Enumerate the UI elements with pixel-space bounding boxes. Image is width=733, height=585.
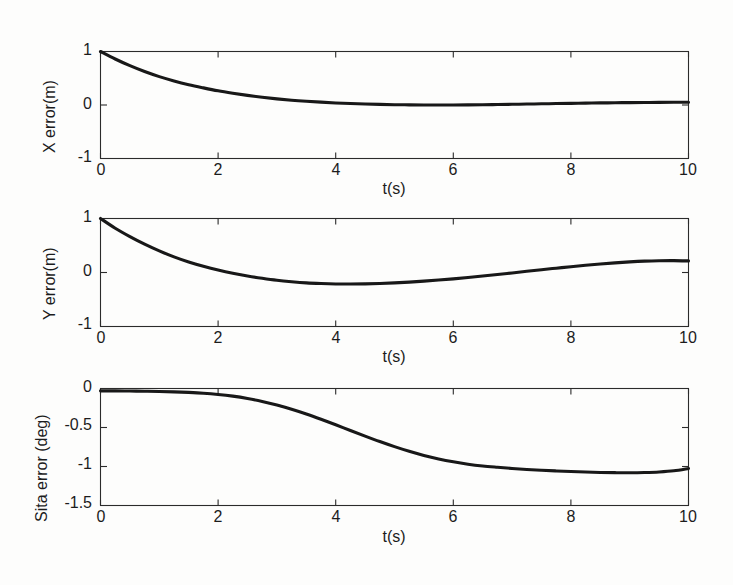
x-tick-label-sita-10: 10 bbox=[671, 508, 705, 526]
curve-sita-error bbox=[101, 391, 689, 473]
plot-area-sita-error bbox=[0, 337, 733, 585]
x-tick-label-sita-0: 0 bbox=[84, 508, 118, 526]
curve-x-error bbox=[101, 52, 689, 106]
figure-canvas: X error(m) 1 0 -1 bbox=[0, 0, 733, 585]
x-tick-marks-y-error bbox=[101, 219, 689, 327]
axis-frame-y-error bbox=[101, 219, 689, 327]
x-tick-label-sita-6: 6 bbox=[436, 508, 470, 526]
x-tick-label-sita-8: 8 bbox=[554, 508, 588, 526]
curve-y-error bbox=[101, 219, 689, 285]
x-tick-label-sita-4: 4 bbox=[319, 508, 353, 526]
x-tick-label-sita-2: 2 bbox=[201, 508, 235, 526]
subplot-sita-error: Sita error (deg) 0 -0.5 -1 -1.5 bbox=[0, 337, 733, 585]
x-axis-label-sita-error: t(s) bbox=[361, 528, 427, 546]
